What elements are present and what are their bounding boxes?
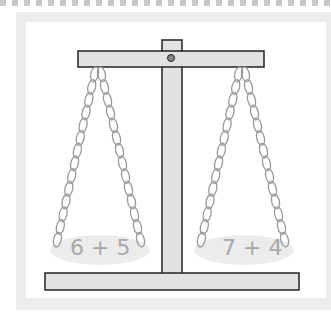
left-expression: 6 + 5	[70, 235, 130, 260]
pivot-icon	[168, 55, 175, 62]
right-expression: 7 + 4	[222, 235, 282, 260]
base	[45, 273, 299, 290]
balance-scale-icon	[0, 0, 331, 315]
post	[162, 40, 182, 274]
